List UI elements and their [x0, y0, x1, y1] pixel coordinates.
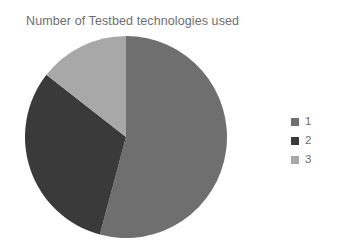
legend-item-1[interactable]: 1	[291, 112, 337, 131]
pie-svg	[25, 36, 227, 238]
chart-title: Number of Testbed technologies used	[26, 14, 239, 28]
legend-swatch-1	[291, 118, 299, 126]
legend-label-2: 2	[305, 135, 311, 147]
pie-slice-group	[25, 36, 227, 238]
legend-swatch-2	[291, 137, 299, 145]
pie-plot-area	[25, 36, 227, 238]
legend-item-3[interactable]: 3	[291, 150, 337, 169]
pie-chart-figure: Number of Testbed technologies used 123	[0, 0, 343, 247]
legend-item-2[interactable]: 2	[291, 131, 337, 150]
chart-legend: 123	[291, 112, 337, 169]
legend-swatch-3	[291, 156, 299, 164]
legend-label-3: 3	[305, 154, 311, 166]
legend-label-1: 1	[305, 116, 311, 128]
